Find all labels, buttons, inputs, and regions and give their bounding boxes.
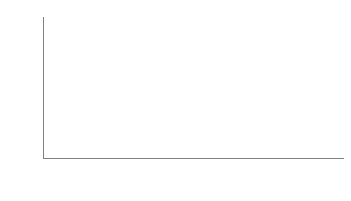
- plot-area: [44, 17, 344, 158]
- y-axis-title: [0, 0, 16, 163]
- x-axis-line: [43, 158, 344, 159]
- y-axis-line: [43, 17, 44, 159]
- stacked-bar-chart: [0, 0, 351, 201]
